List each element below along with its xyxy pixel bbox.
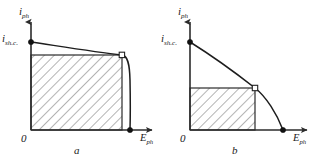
panel-a-caption: a xyxy=(74,145,80,156)
panel-b-caption: b xyxy=(232,145,238,156)
panel-a-power-rect-fill xyxy=(31,55,122,130)
panel-a-eoc-marker xyxy=(127,127,132,132)
panel-a-origin-label: 0 xyxy=(21,133,27,144)
panel-a-y-axis-label: iph xyxy=(19,6,29,20)
panel-b-origin-label: 0 xyxy=(180,133,186,144)
figure-svg xyxy=(0,0,320,164)
figure-container: iph ish.c. 0 Eocph Eph a iph ish.c. 0 Eo… xyxy=(0,0,320,164)
panel-b-eoc-marker xyxy=(280,127,285,132)
panel-b-power-rect-fill xyxy=(190,88,255,130)
panel-b-y-axis-label: iph xyxy=(178,6,188,20)
panel-a-isc-label: ish.c. xyxy=(2,33,18,47)
panel-a-mpp-marker xyxy=(119,52,124,57)
panel-b-mpp-marker xyxy=(252,85,257,90)
panel-b-isc-marker xyxy=(187,39,192,44)
panel-a-x-axis-label: Eph xyxy=(140,133,153,146)
panel-b-x-axis-label: Eph xyxy=(293,133,306,146)
panel-b xyxy=(187,22,307,133)
panel-a xyxy=(28,22,152,133)
panel-a-isc-marker xyxy=(28,39,33,44)
panel-b-isc-label: ish.c. xyxy=(161,33,177,47)
